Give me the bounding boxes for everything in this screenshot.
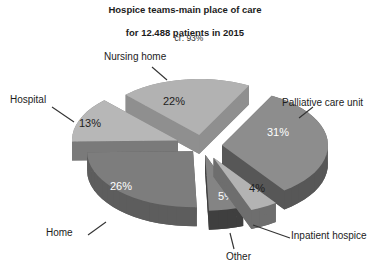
pie-slice-side-home xyxy=(102,180,107,203)
slice-label-inpatient-hospice: Inpatient hospice xyxy=(291,230,367,241)
pie-slice-side-other xyxy=(209,210,218,229)
pie-slice-side-home xyxy=(126,195,134,217)
leader-line-home xyxy=(88,222,106,235)
pie-slice-side-other xyxy=(218,210,227,230)
pie-slice-side-palliative-care-unit xyxy=(292,184,299,206)
pie-slice-side-palliative-care-unit xyxy=(304,177,310,200)
slice-label-other: Other xyxy=(226,251,251,262)
pie-slice-side-home xyxy=(142,200,150,221)
leader-line-nursing-home xyxy=(152,67,167,80)
chart-figure: Hospice teams-main place of care for 12.… xyxy=(0,0,385,274)
pie-slice-side-home xyxy=(119,192,126,214)
slice-label-palliative-care-unit: Palliative care unit xyxy=(282,97,363,108)
pie-slice-side-home xyxy=(177,207,186,227)
pie-percent-label-hospital: 13% xyxy=(79,117,101,129)
pie-percent-label-nursing-home: 22% xyxy=(163,95,185,107)
pie-slice-side-home xyxy=(186,207,195,226)
pie-slice-side-home xyxy=(167,206,176,226)
leader-line-inpatient-hospice xyxy=(253,225,290,238)
pie-slice-side-palliative-care-unit xyxy=(284,188,291,210)
pie-percent-label-home: 26% xyxy=(110,180,132,192)
pie-slice-side-palliative-care-unit xyxy=(298,181,304,204)
slice-label-home: Home xyxy=(46,227,73,238)
leader-line-hospital xyxy=(52,107,74,122)
pie-percent-label-inpatient-hospice: 4% xyxy=(249,182,265,194)
pie-slice-side-home xyxy=(134,198,142,220)
pie-slice-home: 26% xyxy=(87,151,197,226)
pie-slice-side-home xyxy=(159,204,168,224)
slice-label-nursing-home: Nursing home xyxy=(104,51,166,62)
leader-line-other xyxy=(230,233,234,249)
slice-label-hospital: Hospital xyxy=(10,94,46,105)
pie-slice-side-home xyxy=(150,202,159,223)
pie-percent-label-palliative-care-unit: 31% xyxy=(267,126,289,138)
